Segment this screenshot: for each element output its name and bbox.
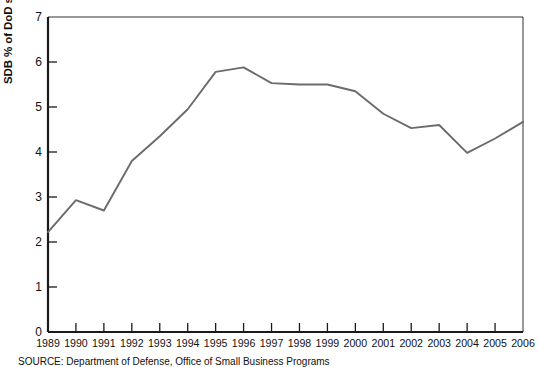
source-note: SOURCE: Department of Defense, Office of… xyxy=(18,356,330,367)
y-tick-label: 3 xyxy=(24,191,42,203)
x-tick-label: 2006 xyxy=(507,338,539,349)
y-tick-label: 7 xyxy=(24,11,42,23)
y-tick-label: 5 xyxy=(24,101,42,113)
chart-axes xyxy=(48,17,523,332)
y-tick-label: 2 xyxy=(24,236,42,248)
chart-tick-marks xyxy=(48,62,495,332)
data-series-line xyxy=(48,67,523,232)
y-tick-label: 1 xyxy=(24,281,42,293)
y-tick-label: 4 xyxy=(24,146,42,158)
y-axis-title: SDB % of DoD subcontract dollars xyxy=(2,0,14,84)
y-tick-label: 6 xyxy=(24,56,42,68)
